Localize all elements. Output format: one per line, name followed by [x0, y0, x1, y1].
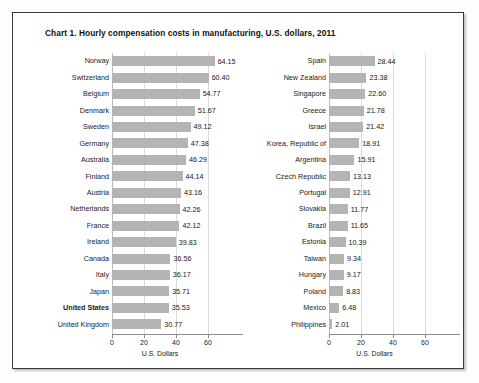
bar: [329, 204, 348, 214]
category-label: Taiwan: [246, 254, 326, 263]
x-tick-label: 60: [421, 339, 429, 346]
bar: [112, 106, 195, 116]
bar-row: Estonia10.39: [246, 234, 461, 250]
value-label: 21.42: [366, 122, 384, 131]
value-label: 42.12: [182, 221, 200, 230]
bar-row: Greece21.78: [246, 102, 461, 118]
value-label: 46.29: [189, 155, 207, 164]
screenshot-root: Chart 1. Hourly compensation costs in ma…: [0, 0, 479, 383]
category-label: Norway: [21, 56, 109, 65]
bar: [329, 138, 359, 148]
bar-row: Hungary9.17: [246, 267, 461, 283]
category-label: Switzerland: [21, 73, 109, 82]
bar: [329, 188, 350, 198]
bar: [112, 73, 209, 83]
category-label: Portugal: [246, 188, 326, 197]
chart-title: Chart 1. Hourly compensation costs in ma…: [45, 28, 335, 38]
bar: [112, 122, 191, 132]
bar-row: France42.12: [21, 218, 243, 234]
bar-row: Sweden49.12: [21, 119, 243, 135]
value-label: 12.91: [353, 188, 371, 197]
category-label: Greece: [246, 106, 326, 115]
value-label: 23.38: [369, 73, 387, 82]
category-label: United Kingdom: [21, 320, 109, 329]
category-label: Mexico: [246, 303, 326, 312]
value-label: 43.16: [184, 188, 202, 197]
category-label: France: [21, 221, 109, 230]
x-tick-label: 20: [357, 339, 365, 346]
value-label: 47.38: [191, 139, 209, 148]
bar: [112, 188, 181, 198]
value-label: 21.78: [367, 106, 385, 115]
bar-row: Norway64.15: [21, 53, 243, 69]
x-tick-label: 0: [110, 339, 114, 346]
category-label: Argentina: [246, 155, 326, 164]
x-tick-label: 0: [327, 339, 331, 346]
value-label: 35.53: [172, 303, 190, 312]
value-label: 36.56: [173, 254, 191, 263]
bar-row: New Zealand23.38: [246, 69, 461, 85]
value-label: 2.01: [335, 320, 349, 329]
bar: [112, 138, 188, 148]
category-label: Austria: [21, 188, 109, 197]
value-label: 11.65: [351, 221, 368, 230]
value-label: 30.77: [164, 320, 182, 329]
bar: [329, 286, 343, 296]
bar-row: Mexico6.48: [246, 300, 461, 316]
value-label: 10.39: [349, 238, 367, 247]
value-label: 9.17: [347, 270, 361, 279]
bar-row: Spain28.44: [246, 53, 461, 69]
x-tick: [393, 335, 394, 338]
x-tick: [144, 335, 145, 338]
bar-row: United Kingdom30.77: [21, 316, 243, 332]
bar-row: Poland8.83: [246, 283, 461, 299]
category-label: Estonia: [246, 237, 326, 246]
bar-row: Czech Republic13.13: [246, 168, 461, 184]
bar-row: Denmark51.67: [21, 102, 243, 118]
bar: [112, 319, 161, 329]
bar-row: United States35.53: [21, 300, 243, 316]
bar: [112, 171, 183, 181]
category-label: Brazil: [246, 221, 326, 230]
chart-frame: Chart 1. Hourly compensation costs in ma…: [12, 12, 464, 369]
category-label: Finland: [21, 172, 109, 181]
x-tick-label: 40: [172, 339, 180, 346]
x-tick: [208, 335, 209, 338]
x-axis-line: [112, 334, 243, 335]
bar-row: Ireland39.83: [21, 234, 243, 250]
value-label: 9.34: [347, 254, 361, 263]
bar: [329, 106, 364, 116]
value-label: 35.71: [172, 287, 190, 296]
value-label: 54.77: [203, 89, 221, 98]
category-label: Czech Republic: [246, 172, 326, 181]
category-label: Belgium: [21, 89, 109, 98]
category-label: United States: [21, 303, 109, 312]
bar-row: Switzerland60.40: [21, 69, 243, 85]
category-label: Israel: [246, 122, 326, 131]
value-label: 22.60: [368, 89, 386, 98]
x-axis-line: [329, 334, 460, 335]
x-tick: [361, 335, 362, 338]
category-label: Sweden: [21, 122, 109, 131]
bar-row: Portugal12.91: [246, 185, 461, 201]
bar-row: Korea, Republic of18.91: [246, 135, 461, 151]
bar: [112, 286, 169, 296]
value-label: 6.48: [342, 303, 356, 312]
x-tick: [112, 335, 113, 338]
bar: [329, 171, 350, 181]
category-label: Denmark: [21, 106, 109, 115]
bar: [329, 155, 354, 165]
bar-row: Argentina15.91: [246, 152, 461, 168]
bar: [112, 56, 215, 66]
bar: [329, 237, 346, 247]
left-panel: Norway64.15Switzerland60.40Belgium54.77D…: [21, 53, 243, 353]
value-label: 18.91: [362, 139, 380, 148]
bar-row: Japan35.71: [21, 283, 243, 299]
value-label: 13.13: [353, 172, 371, 181]
x-tick: [329, 335, 330, 338]
right-panel: Spain28.44New Zealand23.38Singapore22.60…: [246, 53, 461, 353]
value-label: 49.12: [194, 122, 212, 131]
x-axis-title: U.S. Dollars: [49, 350, 271, 357]
bar: [329, 254, 344, 264]
value-label: 44.14: [186, 172, 204, 181]
